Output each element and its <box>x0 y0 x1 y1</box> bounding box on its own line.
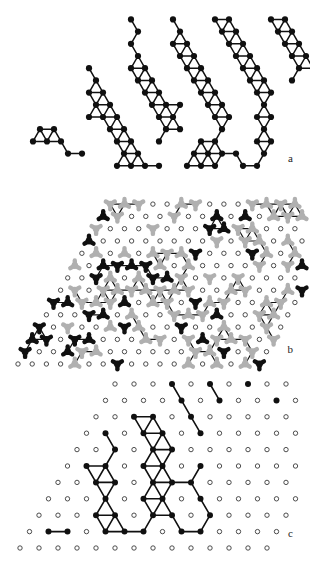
adsorbate-node <box>296 41 302 47</box>
trimer-hub <box>157 336 164 343</box>
occupied-site <box>179 397 185 403</box>
occupied-site <box>198 463 204 469</box>
vacant-site <box>257 337 261 341</box>
vacant-site <box>200 263 204 267</box>
vacant-site <box>265 480 269 484</box>
gray-trimer <box>262 297 271 306</box>
adsorbate-node <box>198 138 204 144</box>
adsorbate-node <box>100 114 106 120</box>
vacant-site <box>208 325 212 329</box>
trimer-centre-dot <box>101 313 106 318</box>
trimer-hub <box>171 287 178 294</box>
adsorbate-node <box>289 77 295 83</box>
vacant-site <box>227 513 231 517</box>
vacant-site <box>264 276 268 280</box>
trimer-centre-dot <box>37 325 42 330</box>
vacant-site <box>122 431 126 435</box>
vacant-site <box>250 276 254 280</box>
vacant-site <box>16 362 20 366</box>
vacant-site <box>44 362 48 366</box>
trimer-hub <box>256 238 263 245</box>
trimer-centre-dot <box>101 214 106 219</box>
occupied-site <box>150 479 156 485</box>
vacant-site <box>229 214 233 218</box>
vacant-site <box>172 337 176 341</box>
vacant-site <box>179 464 183 468</box>
adsorbate-node <box>128 65 134 71</box>
gray-trimer <box>255 262 264 271</box>
gray-trimer <box>148 225 157 234</box>
gray-trimer <box>283 285 292 294</box>
adsorbate-node <box>86 90 92 96</box>
adsorbate-node <box>289 29 295 35</box>
vacant-site <box>179 227 183 231</box>
gray-trimer <box>184 359 193 368</box>
vacant-site <box>217 529 221 533</box>
trimer-hub <box>292 250 299 257</box>
trimer-hub <box>71 262 78 269</box>
gray-trimer <box>248 201 257 210</box>
trimer-centre-dot <box>300 263 305 268</box>
trimer-hub <box>107 324 114 331</box>
trimer-hub <box>242 287 249 294</box>
adsorbate-node <box>226 16 232 22</box>
vacant-site <box>132 546 136 550</box>
adsorbate-node <box>156 163 162 169</box>
trimer-centre-dot <box>51 300 56 305</box>
trimer-centre-dot <box>151 276 156 281</box>
vacant-site <box>227 546 231 550</box>
gray-trimer <box>177 275 186 284</box>
adsorbate-node <box>142 65 148 71</box>
adsorbate-node <box>177 126 183 132</box>
vacant-site <box>279 276 283 280</box>
vacant-site <box>137 227 141 231</box>
adsorbate-node <box>128 41 134 47</box>
trimer-centre-dot <box>65 300 70 305</box>
vacant-site <box>189 513 193 517</box>
vacant-site <box>236 398 240 402</box>
adsorbate-node <box>184 163 190 169</box>
adsorbate-node <box>268 138 274 144</box>
gray-trimer <box>227 334 236 343</box>
adsorbate-node <box>205 77 211 83</box>
vacant-site <box>122 276 126 280</box>
gray-trimer <box>212 336 221 345</box>
gray-trimer <box>290 248 299 257</box>
vacant-site <box>236 300 240 304</box>
trimer-centre-dot <box>222 349 227 354</box>
gray-trimer <box>141 334 150 343</box>
occupied-site <box>179 529 185 535</box>
gray-trimer <box>184 336 193 345</box>
occupied-site <box>207 381 213 387</box>
gray-trimer <box>113 213 122 222</box>
gray-trimer <box>191 201 200 210</box>
vacant-site <box>236 497 240 501</box>
gray-trimer <box>283 213 292 222</box>
gray-trimer <box>92 347 101 356</box>
occupied-site <box>198 529 204 535</box>
adsorbate-node <box>177 29 183 35</box>
adsorbate-node <box>184 65 190 71</box>
vacant-site <box>75 513 79 517</box>
trimer-hub <box>263 299 270 306</box>
trimer-hub <box>185 336 192 343</box>
panel-a-canvas <box>0 0 310 190</box>
adsorbate-node <box>261 151 267 157</box>
adsorbate-node <box>261 102 267 108</box>
vacant-site <box>144 239 148 243</box>
gray-trimer <box>156 260 165 269</box>
vacant-site <box>293 227 297 231</box>
occupied-site <box>112 512 118 518</box>
vacant-site <box>101 337 105 341</box>
gray-trimer <box>170 213 179 222</box>
vacant-site <box>132 447 136 451</box>
adsorbate-node <box>135 29 141 35</box>
vacant-site <box>274 431 278 435</box>
vacant-site <box>200 239 204 243</box>
vacant-site <box>193 227 197 231</box>
trimer-centre-dot <box>122 325 127 330</box>
trimer-hub <box>164 299 171 306</box>
adsorbate-node <box>170 16 176 22</box>
adsorbate-node <box>254 90 260 96</box>
gray-trimer <box>141 285 150 294</box>
